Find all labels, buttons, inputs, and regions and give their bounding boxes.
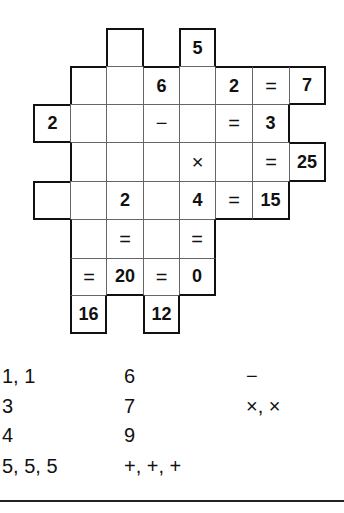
operator-cell: =: [143, 258, 180, 296]
piece-item: 4: [2, 423, 13, 447]
number-cell: 2: [33, 104, 71, 143]
empty-cell[interactable]: [70, 104, 107, 143]
piece-item: 3: [2, 394, 13, 418]
number-cell: 2: [215, 66, 253, 105]
piece-item: 9: [124, 423, 135, 447]
operator-cell: =: [215, 104, 253, 143]
operator-cell: =: [70, 258, 107, 296]
piece-item: ×, ×: [246, 394, 280, 418]
piece-item: 1, 1: [2, 364, 35, 388]
operator-cell: =: [252, 66, 290, 105]
empty-cell[interactable]: [106, 28, 144, 67]
empty-cell[interactable]: [215, 142, 253, 182]
empty-cell[interactable]: [106, 66, 144, 105]
empty-cell[interactable]: [70, 142, 107, 182]
empty-cell[interactable]: [70, 219, 107, 259]
empty-cell[interactable]: [143, 181, 180, 220]
divider-line: [0, 500, 344, 502]
empty-cell[interactable]: [33, 181, 71, 220]
piece-item: −: [246, 364, 258, 388]
number-cell: 6: [143, 66, 180, 105]
piece-item: 5, 5, 5: [2, 454, 58, 478]
empty-cell[interactable]: [70, 66, 107, 105]
piece-item: +, +, +: [124, 454, 181, 478]
operator-cell: −: [143, 104, 180, 143]
number-cell: 7: [289, 66, 326, 105]
number-cell: 25: [289, 142, 326, 182]
number-cell: 0: [179, 258, 216, 296]
piece-item: 6: [124, 364, 135, 388]
operator-cell: =: [179, 219, 216, 259]
number-cell: 12: [143, 295, 180, 334]
number-cell: 15: [252, 181, 290, 220]
operator-cell: =: [106, 219, 144, 259]
empty-cell[interactable]: [70, 181, 107, 220]
number-cell: 4: [179, 181, 216, 220]
number-cell: 3: [252, 104, 290, 143]
empty-cell[interactable]: [143, 142, 180, 182]
number-cell: 20: [106, 258, 144, 296]
number-cell: 5: [179, 28, 216, 67]
empty-cell[interactable]: [143, 219, 180, 259]
empty-cell[interactable]: [179, 104, 216, 143]
operator-cell: ×: [179, 142, 216, 182]
number-cell: 2: [106, 181, 144, 220]
empty-cell[interactable]: [106, 142, 144, 182]
number-cell: 16: [70, 295, 107, 334]
operator-cell: =: [252, 142, 290, 182]
crossnumber-grid: 562=72−=3×=2524=15===20=01612: [0, 0, 344, 340]
operator-cell: =: [215, 181, 253, 220]
empty-cell[interactable]: [106, 104, 144, 143]
piece-item: 7: [124, 394, 135, 418]
empty-cell[interactable]: [179, 66, 216, 105]
